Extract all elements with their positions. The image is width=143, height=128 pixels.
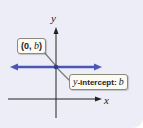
point-close-paren: ) bbox=[39, 41, 42, 51]
leader-line-point bbox=[44, 52, 56, 66]
x-axis-arrow-icon bbox=[95, 97, 102, 102]
line-left-arrow-icon bbox=[10, 64, 18, 71]
intercept-text: -intercept: bbox=[77, 78, 118, 87]
y-axis bbox=[54, 27, 59, 118]
y-intercept-callout: y-intercept: b bbox=[69, 74, 128, 90]
line-right-arrow-icon bbox=[94, 64, 102, 71]
y-axis-arrow-icon bbox=[54, 27, 59, 34]
intercept-value: b bbox=[119, 76, 124, 87]
coordinate-plane bbox=[0, 0, 143, 128]
y-intercept-point bbox=[54, 65, 59, 70]
x-axis bbox=[8, 97, 102, 102]
x-axis-label: x bbox=[104, 94, 109, 106]
point-callout: (0, b) bbox=[17, 38, 46, 54]
y-axis-label: y bbox=[51, 12, 56, 24]
